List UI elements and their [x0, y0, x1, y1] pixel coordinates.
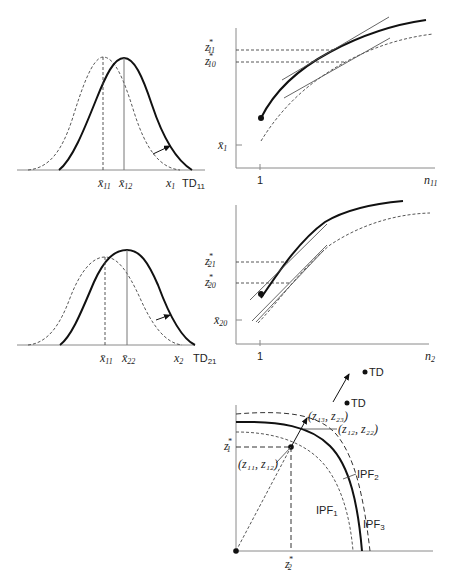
new-mean-label: x̄22 [121, 351, 135, 366]
tangent-line-lower [284, 38, 390, 98]
response-panel-1: z*11 z*10 x̄1 1 n11 [204, 17, 437, 188]
distribution-panel-2: x̄11 x̄22 x2 TD21 [17, 250, 217, 366]
tick-one-label: 1 [257, 174, 263, 186]
x-axis-label: n11 [424, 173, 437, 188]
old-response-curve [258, 213, 430, 323]
x-bar-label: x̄20 [213, 313, 227, 328]
shift-arrow-icon [156, 315, 170, 320]
td-label: TD11 [182, 177, 206, 191]
td-inner-label: TD [351, 397, 366, 409]
ipf1-curve [236, 432, 353, 551]
tick-one-label: 1 [257, 350, 263, 362]
new-response-curve [261, 201, 403, 298]
point-z13-z23-label: (z₁₃, z₂₃) [308, 409, 348, 423]
old-distribution-curve [28, 257, 182, 345]
distribution-panel-1: x̄11 x̄12 x1 TD11 [17, 57, 206, 191]
ipf1-label: IPF1 [316, 504, 338, 518]
diagram-canvas: x̄11 x̄12 x1 TD11 z*11 z*10 x̄1 1 n11 x̄… [0, 0, 456, 583]
response-panel-2: z*21 z*20 x̄20 1 n2 [204, 201, 435, 364]
ipf2-label: IPF2 [357, 468, 379, 482]
td-label: TD21 [193, 352, 217, 366]
frontier-panel: TD TD (z₁₃, z₂₃) (z₁₂, z₂₂) (z₁₁, z₁₂) z… [223, 366, 433, 572]
old-mean-label: x̄11 [97, 176, 111, 191]
shift-arrow-icon [153, 146, 170, 154]
x-bar-label: x̄1 [217, 138, 227, 153]
old-distribution-curve [28, 57, 180, 170]
x-axis-label: n2 [425, 349, 435, 364]
start-point [258, 291, 264, 297]
z-low-label: z*20 [204, 273, 216, 290]
td-outer-label: TD [369, 366, 384, 378]
point-z11-z12-label: (z₁₁, z₁₂) [238, 457, 278, 471]
ipf2-curve [236, 422, 362, 551]
start-point [258, 115, 264, 121]
td-inner-point [345, 401, 350, 406]
z-high-label: z*21 [204, 252, 216, 269]
td-outer-point [363, 370, 368, 375]
new-distribution-curve [59, 58, 192, 170]
z2-star-label: z*2 [284, 555, 293, 572]
z1-star-label: z*1 [223, 437, 232, 454]
new-response-curve [261, 20, 426, 118]
origin-point [233, 548, 239, 554]
old-mean-label: x̄11 [99, 351, 113, 366]
point-z12-z22-label: (z₁₂, z₂₂) [338, 422, 378, 436]
expansion-arrow-icon [291, 418, 307, 447]
td-direction-arrow-icon [333, 374, 349, 402]
tangent-line-upper [282, 17, 389, 80]
axis-var-label: x1 [165, 176, 175, 191]
ipf3-label: IPF3 [363, 518, 385, 532]
new-mean-label: x̄12 [118, 176, 132, 191]
axis-var-label: x2 [173, 351, 183, 366]
